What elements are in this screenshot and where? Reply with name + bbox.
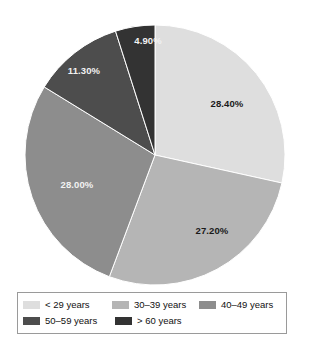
legend-swatch-icon bbox=[23, 301, 40, 309]
legend-item-label: 30–39 years bbox=[134, 300, 186, 310]
pie-chart-plot-area: 28.40%27.20%28.00%11.30%4.90% bbox=[0, 0, 311, 288]
legend-item-under-29[interactable]: < 29 years bbox=[23, 297, 112, 313]
pie-data-label: 27.20% bbox=[196, 225, 229, 236]
legend-item-40-49[interactable]: 40–49 years bbox=[199, 297, 282, 313]
legend-item-over-60[interactable]: > 60 years bbox=[115, 313, 205, 329]
pie-chart-figure: 28.40%27.20%28.00%11.30%4.90% < 29 years… bbox=[0, 0, 311, 351]
legend-item-label: > 60 years bbox=[137, 316, 182, 326]
pie-data-label: 28.00% bbox=[61, 179, 94, 190]
legend-row: 50–59 years > 60 years bbox=[23, 313, 282, 329]
legend-row: < 29 years 30–39 years 40–49 years bbox=[23, 297, 282, 313]
legend-swatch-icon bbox=[112, 301, 129, 309]
chart-legend: < 29 years 30–39 years 40–49 years 50–59… bbox=[17, 292, 287, 334]
legend-item-label: 40–49 years bbox=[221, 300, 273, 310]
pie-chart-svg: 28.40%27.20%28.00%11.30%4.90% bbox=[0, 0, 311, 288]
legend-swatch-icon bbox=[23, 317, 40, 325]
legend-item-label: 50–59 years bbox=[45, 316, 97, 326]
legend-item-50-59[interactable]: 50–59 years bbox=[23, 313, 115, 329]
legend-item-30-39[interactable]: 30–39 years bbox=[112, 297, 199, 313]
legend-item-label: < 29 years bbox=[45, 300, 90, 310]
pie-data-label: 11.30% bbox=[68, 65, 101, 76]
pie-data-label: 28.40% bbox=[211, 98, 244, 109]
legend-swatch-icon bbox=[115, 317, 132, 325]
pie-slice-group bbox=[25, 25, 285, 285]
legend-swatch-icon bbox=[199, 301, 216, 309]
pie-data-label: 4.90% bbox=[134, 35, 162, 46]
